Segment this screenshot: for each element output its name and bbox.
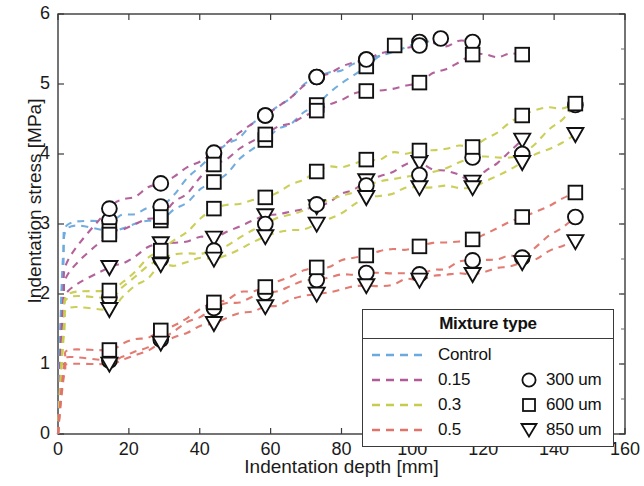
legend-marker-symbol bbox=[512, 395, 546, 415]
legend-line-swatch bbox=[370, 373, 430, 387]
y-tick-label: 5 bbox=[10, 73, 50, 94]
legend-title: Mixture type bbox=[363, 310, 613, 339]
legend-mixture-label: Control bbox=[430, 345, 512, 365]
data-marker-triangle bbox=[257, 230, 273, 244]
legend-entries: Control0.15300 um0.3600 um0.5850 um bbox=[363, 339, 613, 446]
data-marker-square bbox=[413, 144, 427, 158]
data-marker-triangle bbox=[257, 300, 273, 314]
data-marker-circle bbox=[465, 253, 480, 268]
data-marker-square bbox=[310, 261, 324, 275]
data-marker-square bbox=[207, 158, 221, 172]
data-marker-circle bbox=[153, 176, 168, 191]
legend-mixture-label: 0.15 bbox=[430, 370, 512, 390]
legend-box: Mixture type Control0.15300 um0.3600 um0… bbox=[362, 309, 614, 447]
legend-size-label: 850 um bbox=[546, 420, 602, 440]
data-marker-square bbox=[154, 244, 168, 258]
legend-size-label: 300 um bbox=[546, 370, 602, 390]
legend-marker-symbol bbox=[512, 420, 546, 440]
y-tick-label: 2 bbox=[10, 283, 50, 304]
data-marker-square bbox=[569, 186, 583, 200]
data-marker-square bbox=[207, 202, 221, 216]
data-marker-square bbox=[103, 343, 117, 357]
data-marker-square bbox=[259, 128, 273, 142]
data-marker-square bbox=[515, 210, 529, 224]
data-marker-square bbox=[360, 84, 374, 98]
data-marker-triangle bbox=[358, 191, 374, 205]
legend-size-label: 600 um bbox=[546, 395, 602, 415]
data-marker-triangle bbox=[567, 235, 583, 249]
data-marker-circle bbox=[258, 108, 273, 123]
data-marker-square bbox=[310, 165, 324, 179]
data-marker-triangle bbox=[514, 156, 530, 170]
data-marker-square bbox=[515, 109, 529, 123]
legend-line-swatch bbox=[370, 398, 430, 412]
y-tick-label: 4 bbox=[10, 143, 50, 164]
y-tick-label: 1 bbox=[10, 353, 50, 374]
data-marker-square bbox=[413, 76, 427, 90]
data-marker-triangle bbox=[101, 303, 117, 317]
data-marker-circle bbox=[309, 70, 324, 85]
legend-line-swatch bbox=[370, 348, 430, 362]
x-tick-label: 60 bbox=[246, 439, 296, 460]
x-tick-label: 0 bbox=[33, 439, 83, 460]
data-marker-triangle bbox=[153, 258, 169, 272]
legend-row[interactable]: 0.15300 um bbox=[363, 367, 613, 392]
data-marker-square bbox=[310, 104, 324, 118]
data-marker-square bbox=[466, 48, 480, 62]
data-marker-square bbox=[154, 324, 168, 338]
data-marker-square bbox=[360, 249, 374, 263]
data-marker-square bbox=[207, 296, 221, 310]
y-tick-label: 3 bbox=[10, 213, 50, 234]
y-tick-label: 6 bbox=[10, 3, 50, 24]
data-marker-square bbox=[207, 175, 221, 189]
legend-mixture-label: 0.5 bbox=[430, 420, 512, 440]
legend-row[interactable]: Control bbox=[363, 342, 613, 367]
data-marker-square bbox=[466, 140, 480, 154]
data-marker-circle bbox=[433, 31, 448, 46]
data-marker-square bbox=[413, 240, 427, 254]
data-marker-circle bbox=[359, 266, 374, 281]
data-marker-square bbox=[515, 48, 529, 62]
legend-line-swatch bbox=[370, 423, 430, 437]
x-tick-label: 40 bbox=[175, 439, 225, 460]
x-tick-label: 20 bbox=[104, 439, 154, 460]
data-marker-triangle bbox=[465, 268, 481, 282]
data-marker-square bbox=[569, 97, 583, 111]
data-marker-triangle bbox=[411, 274, 427, 288]
data-marker-square bbox=[259, 191, 273, 205]
data-marker-circle bbox=[568, 210, 583, 225]
legend-mixture-label: 0.3 bbox=[430, 395, 512, 415]
x-tick-label: 80 bbox=[317, 439, 367, 460]
data-marker-square bbox=[466, 233, 480, 247]
data-marker-square bbox=[259, 280, 273, 294]
data-marker-square bbox=[103, 228, 117, 242]
legend-row[interactable]: 0.3600 um bbox=[363, 392, 613, 417]
data-marker-square bbox=[360, 153, 374, 167]
legend-marker-symbol bbox=[512, 370, 546, 390]
data-marker-triangle bbox=[101, 261, 117, 275]
data-marker-triangle bbox=[309, 218, 325, 232]
data-marker-circle bbox=[102, 201, 117, 216]
data-marker-square bbox=[103, 284, 117, 298]
data-marker-circle bbox=[412, 38, 427, 53]
data-marker-triangle bbox=[567, 128, 583, 142]
data-marker-circle bbox=[258, 217, 273, 232]
data-marker-square bbox=[154, 210, 168, 224]
data-marker-circle bbox=[309, 197, 324, 212]
data-marker-circle bbox=[412, 168, 427, 183]
data-marker-circle bbox=[359, 52, 374, 67]
data-marker-square bbox=[388, 39, 402, 53]
legend-row[interactable]: 0.5850 um bbox=[363, 417, 613, 442]
